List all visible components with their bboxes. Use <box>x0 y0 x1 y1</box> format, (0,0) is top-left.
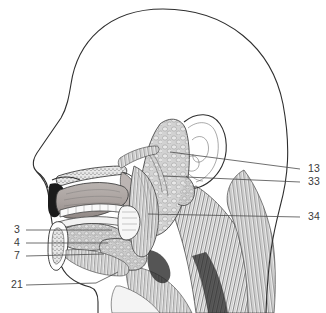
label-33: 33 <box>308 175 320 187</box>
label-34: 34 <box>308 210 320 222</box>
label-21: 21 <box>11 278 23 290</box>
label-13: 13 <box>308 162 320 174</box>
label-3: 3 <box>14 223 20 235</box>
label-7: 7 <box>14 249 20 261</box>
anatomy-illustration: 133334 34721 <box>0 0 326 313</box>
label-4: 4 <box>14 236 20 248</box>
anatomy-figure: 133334 34721 <box>0 0 326 313</box>
